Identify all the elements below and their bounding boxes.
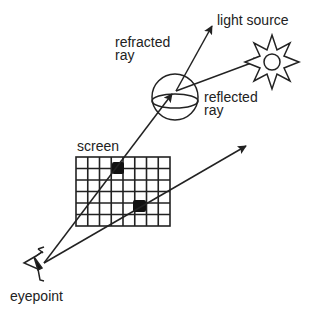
refracted-ray [176, 26, 212, 91]
eye-icon [24, 247, 44, 281]
eyepoint-label: eyepoint [10, 290, 63, 303]
ray-tracing-diagram: light source refracted ray reflected ray… [0, 0, 312, 314]
screen-pixel-1 [112, 162, 124, 174]
screen-label: screen [77, 140, 119, 153]
primary-ray-2 [44, 146, 246, 263]
primary-ray-1 [44, 94, 172, 263]
reflected-ray-label-line2: ray [204, 104, 223, 117]
light-source-label: light source [217, 14, 289, 27]
refracted-ray-label-line2: ray [115, 49, 134, 62]
sphere-object [152, 74, 198, 120]
sun-icon [245, 35, 299, 89]
